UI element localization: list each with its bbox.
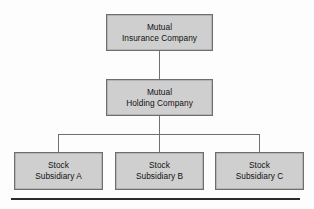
node-mutual-insurance-company-line1: Mutual (147, 22, 172, 33)
node-stock-subsidiary-b-line2: Subsidiary B (136, 171, 183, 182)
bottom-divider-rule (11, 198, 300, 200)
node-stock-subsidiary-a-line2: Subsidiary A (35, 171, 82, 182)
node-stock-subsidiary-b-line1: Stock (149, 160, 170, 171)
node-mutual-insurance-company-line2: Insurance Company (122, 33, 197, 44)
node-stock-subsidiary-c-line1: Stock (249, 160, 270, 171)
node-mutual-holding-company-line2: Holding Company (126, 98, 193, 109)
node-mutual-holding-company-line1: Mutual (147, 87, 172, 98)
node-stock-subsidiary-a: Stock Subsidiary A (14, 152, 103, 190)
node-mutual-insurance-company: Mutual Insurance Company (106, 14, 213, 51)
connector-insurance-to-holding (159, 51, 160, 79)
connector-horizontal-bus (58, 134, 260, 135)
connector-bus-to-subsidiary-a (58, 134, 59, 152)
node-mutual-holding-company: Mutual Holding Company (106, 79, 213, 116)
connector-bus-to-subsidiary-c (259, 134, 260, 152)
node-stock-subsidiary-b: Stock Subsidiary B (115, 152, 204, 190)
org-chart-diagram: Mutual Insurance Company Mutual Holding … (0, 0, 314, 209)
node-stock-subsidiary-a-line1: Stock (48, 160, 69, 171)
node-stock-subsidiary-c-line2: Subsidiary C (236, 171, 284, 182)
node-stock-subsidiary-c: Stock Subsidiary C (215, 152, 304, 190)
